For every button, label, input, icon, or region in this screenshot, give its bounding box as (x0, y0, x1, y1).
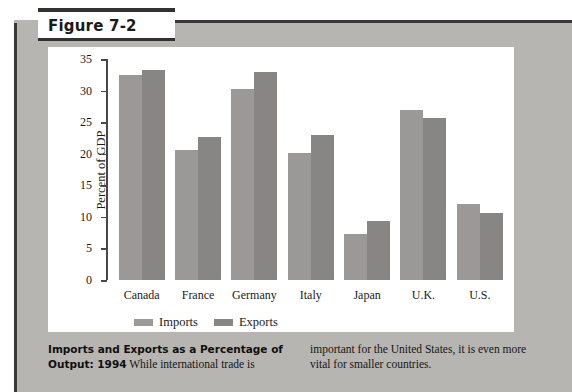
bar-group: Germany (231, 59, 277, 280)
bars-layer: CanadaFranceGermanyItalyJapanU.K.U.S. (108, 59, 503, 280)
y-axis-tick-label: 35 (80, 52, 92, 67)
bar-group: Canada (119, 59, 165, 280)
figure-number-label: Figure 7-2 (48, 17, 137, 35)
x-axis-label: France (175, 288, 221, 303)
y-axis-tick-label: 5 (86, 241, 92, 256)
legend-swatch-icon (134, 319, 153, 326)
caption-left-body: While international trade is (129, 358, 255, 370)
bar-exports (254, 72, 277, 280)
y-axis-tick-label: 15 (80, 178, 92, 193)
bar-group: U.S. (457, 59, 503, 280)
x-axis-label: U.K. (400, 288, 446, 303)
y-axis-tick-label: 25 (80, 115, 92, 130)
legend-item-imports: Imports (134, 315, 198, 330)
y-axis-tick-label: 0 (86, 273, 92, 288)
y-axis-tick: 30 (101, 91, 107, 93)
bar-imports (119, 75, 142, 280)
y-axis-tick: 20 (101, 154, 107, 156)
bar-group: Italy (288, 59, 334, 280)
caption-right-body: important for the United States, it is e… (310, 343, 526, 370)
y-axis-tick: 35 (101, 59, 107, 61)
x-axis-label: Italy (288, 288, 334, 303)
bar-group: Japan (344, 59, 390, 280)
x-axis-label: U.S. (457, 288, 503, 303)
bar-imports (400, 110, 423, 280)
legend-swatch-icon (214, 319, 233, 326)
figure-panel-top-border (175, 20, 572, 23)
bar-exports (367, 221, 390, 280)
y-axis-tick: 10 (101, 217, 107, 219)
figure-panel-left-border (14, 23, 17, 392)
bar-exports (142, 70, 165, 280)
bar-group: U.K. (400, 59, 446, 280)
bar-imports (288, 153, 311, 280)
chart-plot-area: Percent of GDP 05101520253035 CanadaFran… (106, 59, 502, 280)
legend-label: Imports (159, 315, 198, 330)
y-axis-tick: 25 (101, 122, 107, 124)
bar-imports (457, 204, 480, 280)
caption-column-left: Imports and Exports as a Percentage of O… (48, 342, 286, 372)
legend-item-exports: Exports (214, 315, 278, 330)
y-axis-tick-label: 20 (80, 146, 92, 161)
y-axis-tick: 5 (101, 248, 107, 250)
y-axis-tick-label: 10 (80, 209, 92, 224)
figure-number-tab: Figure 7-2 (38, 14, 175, 41)
bar-imports (344, 234, 367, 280)
figure-container: Figure 7-2 Percent of GDP 05101520253035… (0, 0, 572, 392)
bar-group: France (175, 59, 221, 280)
bar-exports (423, 118, 446, 280)
y-axis-tick-label: 30 (80, 83, 92, 98)
x-axis-label: Japan (344, 288, 390, 303)
bar-exports (198, 137, 221, 280)
y-axis-tick: 0 (101, 280, 107, 282)
y-axis-tick: 15 (101, 185, 107, 187)
bar-imports (231, 89, 254, 280)
chart-card: Percent of GDP 05101520253035 CanadaFran… (48, 47, 514, 332)
figure-top-rule (38, 8, 175, 12)
caption-column-right: important for the United States, it is e… (310, 342, 548, 372)
x-axis-label: Germany (231, 288, 277, 303)
bar-exports (311, 135, 334, 280)
chart-legend: ImportsExports (134, 315, 278, 330)
bar-imports (175, 150, 198, 280)
x-axis-label: Canada (119, 288, 165, 303)
legend-label: Exports (239, 315, 278, 330)
figure-caption: Imports and Exports as a Percentage of O… (48, 342, 548, 372)
bar-exports (480, 213, 503, 280)
